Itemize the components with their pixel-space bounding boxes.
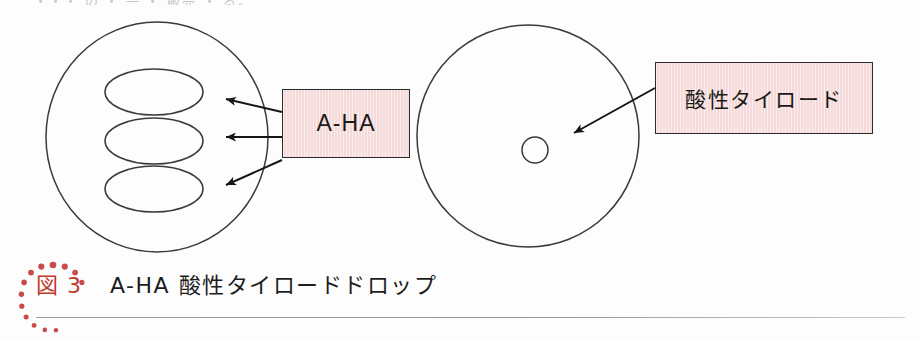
caption-figure-number: 図 3: [36, 267, 82, 299]
arrow-aha-to-ellipse-3: [226, 160, 282, 185]
left-cell-ellipse-3: [105, 166, 203, 212]
figure-caption: 図 3 A-HA 酸性タイロードドロップ: [0, 262, 921, 306]
acid-tyrode-label-box: 酸性タイロード: [655, 62, 873, 134]
left-cell-ellipse-1: [105, 69, 203, 115]
right-cell-circle: [417, 25, 639, 247]
caption-title-text: A-HA 酸性タイロードドロップ: [110, 267, 437, 299]
aha-label-box: A-HA: [282, 89, 410, 158]
left-cell-ellipse-2: [105, 118, 203, 164]
right-cell-nucleus: [522, 137, 548, 163]
scanned-figure-page: ・・・ の ・ 一 ・ 販売 ・ る。 A-HA 酸性タイロード: [0, 0, 921, 339]
aha-label-text: A-HA: [317, 110, 376, 137]
acid-tyrode-label-text: 酸性タイロード: [685, 83, 843, 113]
bottom-divider-rule: [36, 317, 905, 318]
arrow-aha-to-ellipse-1: [226, 99, 282, 112]
arrow-acid-to-nucleus: [574, 88, 655, 133]
